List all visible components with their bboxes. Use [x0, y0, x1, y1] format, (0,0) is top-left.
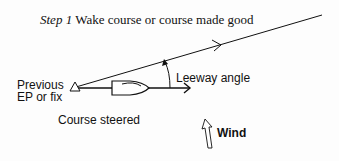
leeway-arc-icon: [162, 59, 170, 88]
wind-arrow-icon: [202, 119, 212, 148]
course-steered-label: Course steered: [58, 114, 140, 127]
leeway-angle-label: Leeway angle: [176, 72, 250, 85]
boat-icon: [112, 81, 149, 95]
wind-label: Wind: [217, 127, 246, 140]
ep-or-fix-label: EP or fix: [17, 91, 62, 104]
diagram-canvas: Step 1 Wake course or course made good: [0, 0, 339, 161]
